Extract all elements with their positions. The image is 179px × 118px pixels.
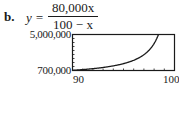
function-curve — [73, 35, 159, 71]
plot-area — [0, 0, 179, 118]
axis-ticks — [73, 39, 165, 71]
plot-frame — [73, 35, 175, 71]
